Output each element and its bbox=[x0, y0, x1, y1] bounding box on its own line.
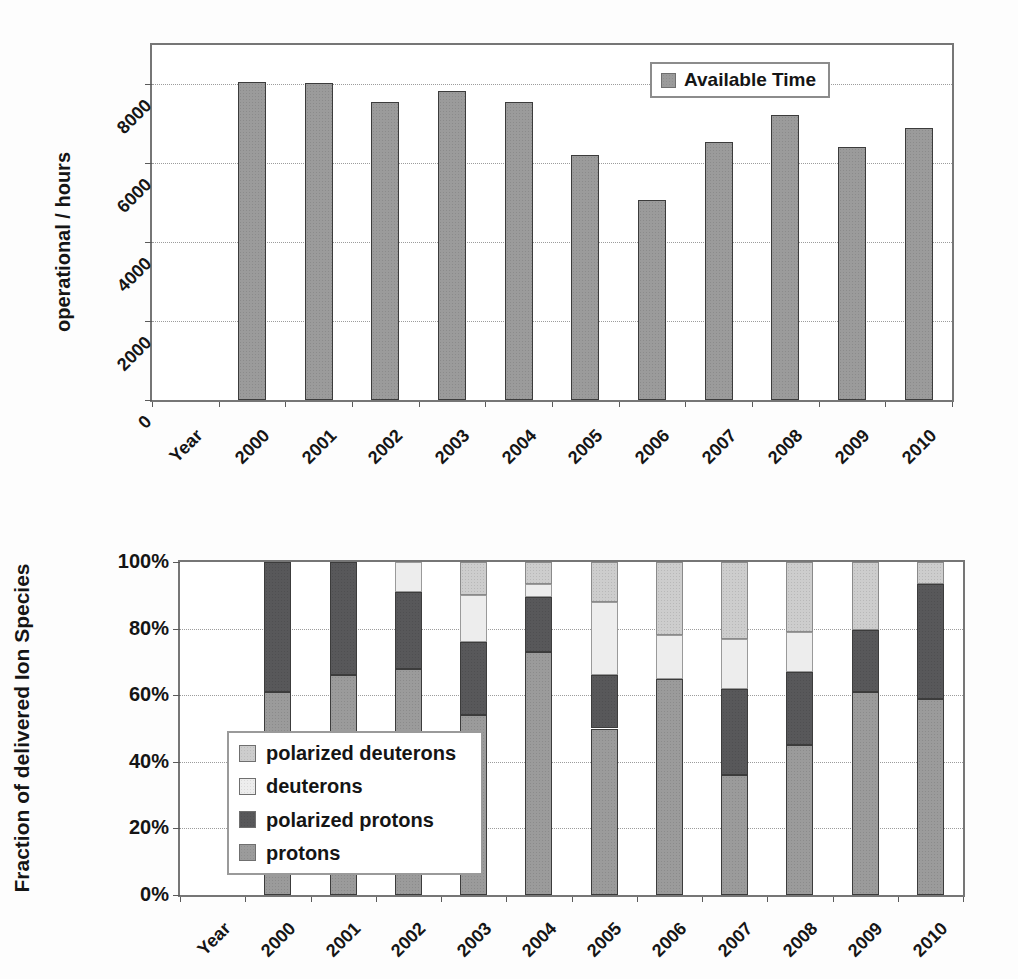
ion-xtick-9 bbox=[767, 897, 768, 902]
bar-available-time-2007 bbox=[705, 142, 733, 400]
hours-xtick-0 bbox=[152, 402, 153, 407]
bar-available-time-2008 bbox=[771, 115, 799, 400]
ion-xlabel-2007: 2007 bbox=[714, 919, 756, 961]
hours-ytick-label-0: 0 bbox=[135, 412, 156, 433]
hours-gridline-4000 bbox=[152, 242, 952, 243]
ion-ytick-label-0: 0% bbox=[140, 883, 169, 906]
bar-available-time-2000 bbox=[238, 82, 266, 400]
segment-polarized-deuterons-2008 bbox=[786, 562, 813, 632]
hours-xlabel-2010: 2010 bbox=[898, 426, 940, 468]
ion-ytick-60 bbox=[173, 695, 180, 696]
hours-xtick-8 bbox=[685, 402, 686, 407]
ion-xtick-3 bbox=[376, 897, 377, 902]
bar-available-time-2009 bbox=[838, 147, 866, 400]
ion-species-y-axis-title: Fraction of delivered Ion Species bbox=[10, 563, 34, 892]
bar-available-time-2001 bbox=[305, 83, 333, 400]
legend-swatch-0 bbox=[239, 745, 256, 762]
available-time-swatch bbox=[661, 73, 676, 88]
segment-polarized-deuterons-2009 bbox=[852, 562, 879, 630]
segment-protons-2009 bbox=[852, 692, 879, 895]
hours-ytick-4000 bbox=[145, 242, 152, 243]
segment-polarized-protons-2000 bbox=[264, 562, 291, 692]
legend-label-1: deuterons bbox=[266, 776, 363, 796]
segment-deuterons-2005 bbox=[591, 602, 618, 675]
ion-species-legend: polarized deuterons deuterons polarized … bbox=[227, 731, 483, 875]
segment-polarized-deuterons-2006 bbox=[656, 562, 683, 635]
segment-polarized-protons-2001 bbox=[330, 562, 357, 675]
legend-item-polarized-deuterons: polarized deuterons bbox=[239, 743, 456, 763]
hours-xlabel-2000: 2000 bbox=[232, 426, 274, 468]
segment-polarized-protons-2010 bbox=[917, 584, 944, 699]
hours-ytick-6000 bbox=[145, 163, 152, 164]
segment-polarized-protons-2004 bbox=[525, 597, 552, 652]
legend-swatch-1 bbox=[239, 778, 256, 795]
ion-ytick-0 bbox=[173, 895, 180, 896]
ion-ytick-label-20: 20% bbox=[129, 816, 169, 839]
ion-xtick-12 bbox=[963, 897, 964, 902]
ion-xtick-6 bbox=[572, 897, 573, 902]
hours-chart-legend: Available Time bbox=[650, 62, 830, 98]
ion-xtick-7 bbox=[637, 897, 638, 902]
segment-protons-2008 bbox=[786, 745, 813, 895]
hours-xtick-11 bbox=[885, 402, 886, 407]
ion-xlabel-2000: 2000 bbox=[258, 919, 300, 961]
legend-swatch-2 bbox=[239, 811, 256, 828]
legend-item-deuterons: deuterons bbox=[239, 776, 363, 796]
ion-xtick-1 bbox=[245, 897, 246, 902]
hours-xlabel-2006: 2006 bbox=[632, 426, 674, 468]
legend-item-polarized-protons: polarized protons bbox=[239, 810, 434, 830]
segment-polarized-deuterons-2004 bbox=[525, 562, 552, 584]
bar-available-time-2002 bbox=[371, 102, 399, 400]
ion-xlabel-2001: 2001 bbox=[323, 919, 365, 961]
hours-ytick-0 bbox=[145, 400, 152, 401]
segment-polarized-protons-2002 bbox=[395, 592, 422, 669]
segment-polarized-deuterons-2003 bbox=[460, 562, 487, 595]
hours-xlabel-2009: 2009 bbox=[832, 426, 874, 468]
legend-item-protons: protons bbox=[239, 843, 340, 863]
ion-xlabel-2010: 2010 bbox=[910, 919, 952, 961]
segment-protons-2006 bbox=[656, 679, 683, 895]
segment-polarized-deuterons-2005 bbox=[591, 562, 618, 602]
segment-protons-2004 bbox=[525, 652, 552, 895]
ion-xlabel-2009: 2009 bbox=[845, 919, 887, 961]
hours-ytick-8000 bbox=[145, 84, 152, 85]
segment-deuterons-2004 bbox=[525, 584, 552, 597]
ion-xtick-11 bbox=[898, 897, 899, 902]
hours-xlabel-2001: 2001 bbox=[298, 426, 340, 468]
ion-xtick-8 bbox=[702, 897, 703, 902]
ion-ytick-20 bbox=[173, 828, 180, 829]
segment-deuterons-2006 bbox=[656, 635, 683, 678]
segment-protons-2010 bbox=[917, 699, 944, 895]
hours-xtick-4 bbox=[419, 402, 420, 407]
segment-polarized-protons-2005 bbox=[591, 675, 618, 728]
hours-gridline-6000 bbox=[152, 163, 952, 164]
ion-xlabel-2005: 2005 bbox=[584, 919, 626, 961]
hours-xtick-1 bbox=[219, 402, 220, 407]
segment-deuterons-2002 bbox=[395, 562, 422, 592]
hours-xtick-7 bbox=[619, 402, 620, 407]
bar-available-time-2004 bbox=[505, 102, 533, 400]
hours-chart-plot-area bbox=[150, 43, 954, 402]
segment-protons-2005 bbox=[591, 729, 618, 896]
segment-polarized-protons-2007 bbox=[721, 689, 748, 776]
hours-ytick-2000 bbox=[145, 321, 152, 322]
hours-xtick-12 bbox=[952, 402, 953, 407]
segment-polarized-protons-2003 bbox=[460, 642, 487, 715]
ion-xtick-10 bbox=[833, 897, 834, 902]
hours-xlabel-2002: 2002 bbox=[365, 426, 407, 468]
ion-xlabel-2002: 2002 bbox=[388, 919, 430, 961]
segment-polarized-deuterons-2007 bbox=[721, 562, 748, 639]
legend-label-3: protons bbox=[266, 843, 340, 863]
hours-xlabel-2003: 2003 bbox=[432, 426, 474, 468]
ion-xlabel-2006: 2006 bbox=[649, 919, 691, 961]
available-time-label: Available Time bbox=[684, 69, 816, 91]
ion-ytick-label-80: 80% bbox=[129, 617, 169, 640]
ion-xtick-2 bbox=[311, 897, 312, 902]
segment-deuterons-2008 bbox=[786, 632, 813, 672]
segment-deuterons-2007 bbox=[721, 639, 748, 689]
ion-xtick-5 bbox=[506, 897, 507, 902]
ion-ytick-40 bbox=[173, 762, 180, 763]
ion-xlabel-Year: Year bbox=[194, 919, 235, 960]
ion-gridline-60 bbox=[180, 695, 963, 696]
hours-xtick-3 bbox=[352, 402, 353, 407]
